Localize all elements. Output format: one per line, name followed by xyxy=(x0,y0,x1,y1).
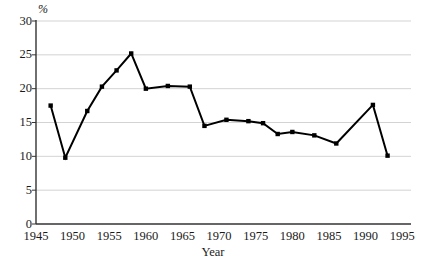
x-tick-label: 1960 xyxy=(133,230,158,243)
chart-figure: % 051015202530 1945195019551960196519701… xyxy=(0,0,426,272)
x-tick-labels: 1945195019551960196519701975198019851990… xyxy=(0,0,426,272)
x-tick-label: 1985 xyxy=(316,230,341,243)
x-tick-label: 1980 xyxy=(280,230,305,243)
x-tick-label: 1990 xyxy=(353,230,378,243)
x-tick-label: 1965 xyxy=(170,230,195,243)
x-tick-label: 1955 xyxy=(97,230,122,243)
x-tick-label: 1950 xyxy=(60,230,85,243)
x-axis-title: Year xyxy=(201,245,224,260)
x-tick-label: 1995 xyxy=(390,230,415,243)
x-tick-label: 1975 xyxy=(243,230,268,243)
x-tick-label: 1970 xyxy=(207,230,232,243)
x-tick-label: 1945 xyxy=(24,230,49,243)
